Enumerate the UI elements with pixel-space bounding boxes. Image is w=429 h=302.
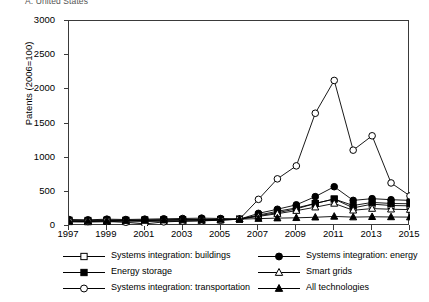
legend-item[interactable]: Systems integration: transportation [62,280,257,295]
filled-triangle-marker [331,213,338,220]
series-line [69,80,410,224]
filled-circle-marker [331,183,338,190]
open-circle-marker [274,176,281,183]
open-circle-marker [255,196,262,203]
figure-container: A. United States Patents (2006=100) 0500… [0,0,429,302]
x-tick-label: 2001 [124,229,164,239]
legend-marker-sample [62,281,106,294]
open-circle-marker [388,180,395,187]
x-tick-label: 2013 [351,229,391,239]
filled-triangle-marker [369,213,376,220]
legend-item-label: Systems integration: buildings [111,251,231,260]
open-square-marker [81,253,87,259]
legend-item[interactable]: Energy storage [62,264,257,279]
legend-item[interactable]: Systems integration: energy [257,248,427,263]
legend-item-label: Energy storage [111,267,172,276]
x-tick-label: 2009 [275,229,315,239]
legend-marker-sample [257,249,301,262]
legend-item-label: Smart grids [306,267,352,276]
legend-marker-sample [62,249,106,262]
x-tick-label: 2007 [237,229,277,239]
open-circle-marker [312,110,319,117]
x-tick-label: 2005 [200,229,240,239]
y-tick-label: 500 [19,186,55,196]
open-circle-marker [293,163,300,170]
y-tick-label: 2000 [19,84,55,94]
legend-item[interactable]: Smart grids [257,264,427,279]
legend-marker-sample [62,265,106,278]
filled-triangle-marker [293,214,300,221]
y-tick-label: 1500 [19,118,55,128]
open-circle-marker [350,147,357,154]
legend-item-label: Systems integration: transportation [111,283,250,292]
legend-item[interactable]: Systems integration: buildings [62,248,257,263]
y-tick-label: 3000 [19,15,55,25]
legend-item[interactable]: All technologies [257,280,427,295]
filled-triangle-marker [388,213,395,220]
legend-item-label: Systems integration: energy [306,251,418,260]
filled-square-marker [81,269,87,275]
filled-circle-marker [312,193,319,200]
open-circle-marker [81,285,88,292]
panel-title: A. United States [25,0,88,6]
x-tick-label: 2011 [313,229,353,239]
filled-circle-marker [276,253,283,260]
open-triangle-marker [275,269,282,276]
y-tick-label: 1000 [19,152,55,162]
y-tick-label: 2500 [19,49,55,59]
open-circle-marker [407,193,410,200]
legend-item-label: All technologies [306,283,369,292]
x-tick-label: 1997 [48,229,88,239]
x-tick-label: 1999 [86,229,126,239]
legend-marker-sample [257,281,301,294]
legend-marker-sample [257,265,301,278]
open-circle-marker [331,77,338,84]
series-4 [69,77,410,226]
series-canvas [69,21,410,226]
open-circle-marker [369,133,376,140]
x-tick-label: 2015 [389,229,429,239]
filled-triangle-marker [407,213,410,220]
chart-legend: Systems integration: buildingsSystems in… [62,248,422,296]
x-tick-label: 2003 [162,229,202,239]
filled-triangle-marker [275,285,282,292]
plot-area [68,20,409,225]
